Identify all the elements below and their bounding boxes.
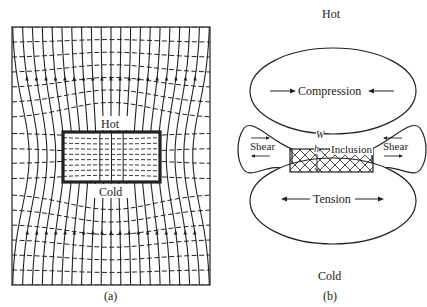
panel-b-hot-label: Hot [322,8,340,20]
inclusion-label: Inclusion [330,144,373,155]
compression-label: Compression [298,85,361,97]
shear-right-label: Shear [383,141,408,152]
width-symbol: W [316,130,324,140]
panel-a-hot-label: Hot [101,118,119,130]
shear-left-label: Shear [250,141,275,152]
panel-b-cold-label: Cold [318,270,341,282]
height-symbol: h [314,144,319,154]
panel-a-field-lines [12,27,210,285]
tension-label: Tension [313,193,351,205]
panel-b-caption: (b) [323,290,337,302]
panel-a-caption: (a) [104,290,117,302]
panel-a-cold-label: Cold [99,186,122,198]
